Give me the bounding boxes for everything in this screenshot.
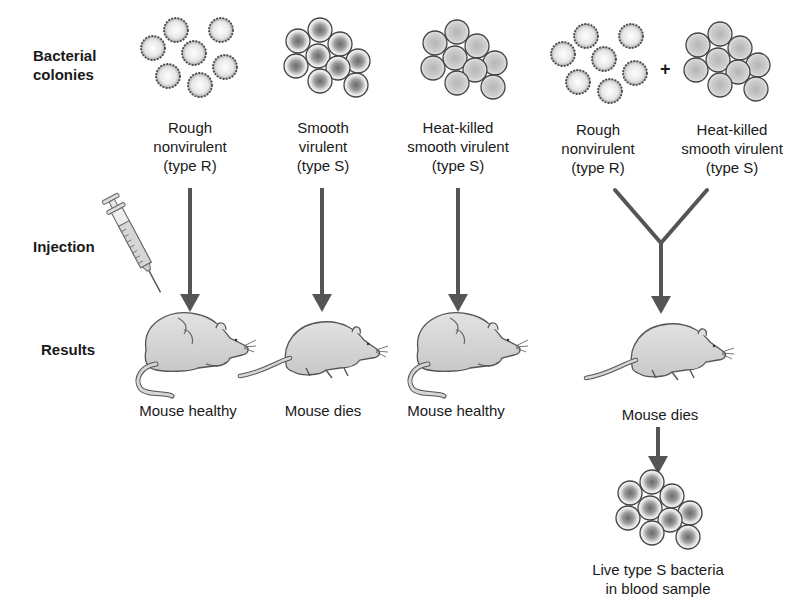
mouse-dies-1: [240, 322, 388, 378]
plus-operator: +: [660, 59, 671, 80]
mouse-healthy-1: [138, 313, 256, 396]
arrow-rough: [180, 188, 200, 312]
result-heat-killed: Mouse healthy: [376, 401, 536, 420]
row-label-colonies-line1: Bacterial: [33, 46, 96, 65]
label-heat-killed: Heat-killed smooth virulent (type S): [378, 118, 538, 175]
row-label-results: Results: [41, 340, 95, 359]
arrow-heat-killed: [448, 188, 468, 312]
label-mix-heat-killed: Heat-killed smooth virulent (type S): [652, 120, 796, 177]
label-line: Heat-killed: [378, 118, 538, 137]
row-label-colonies-line2: colonies: [33, 65, 96, 84]
label-live-type-s: Live type S bacteria in blood sample: [578, 560, 738, 598]
arrow-mixture-merge: [615, 190, 707, 314]
diagram-canvas: [0, 0, 796, 601]
colony-heat-killed-mix: [684, 22, 770, 101]
colony-heat-killed: [421, 20, 507, 99]
arrow-smooth: [312, 188, 332, 312]
label-line: in blood sample: [578, 579, 738, 598]
arrow-blood-sample: [648, 427, 668, 474]
label-line: smooth virulent: [378, 137, 538, 156]
mouse-healthy-2: [410, 313, 528, 396]
label-line: (type S): [378, 156, 538, 175]
colony-live-blood-sample: [616, 470, 702, 549]
row-label-injection: Injection: [33, 237, 95, 256]
row-label-colonies: Bacterial colonies: [33, 46, 96, 84]
label-line: (type S): [652, 158, 796, 177]
mouse-dies-2: [586, 324, 734, 380]
colony-rough-mix: [551, 24, 647, 103]
label-line: Live type S bacteria: [578, 560, 738, 579]
colony-rough: [141, 18, 237, 97]
syringe-icon: [101, 192, 169, 297]
colony-smooth-live: [284, 18, 370, 97]
result-mixture: Mouse dies: [580, 405, 740, 424]
label-line: smooth virulent: [652, 139, 796, 158]
label-line: Heat-killed: [652, 120, 796, 139]
